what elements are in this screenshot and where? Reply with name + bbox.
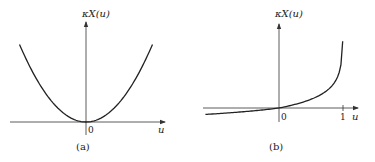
figure: κX(u) 0 u (a) κX(u) 0 1 u (b) bbox=[0, 0, 375, 162]
x-label-a: u bbox=[158, 124, 164, 135]
curve-b bbox=[205, 41, 342, 114]
x-tick-label-a-0: 0 bbox=[88, 125, 94, 135]
y-label-a: κX(u) bbox=[81, 8, 110, 19]
y-label-b: κX(u) bbox=[274, 8, 303, 19]
panel-label-b: (b) bbox=[269, 141, 283, 152]
panel-label-a: (a) bbox=[76, 141, 90, 152]
panel-b: κX(u) 0 1 u (b) bbox=[203, 8, 358, 152]
x-label-b: u bbox=[352, 111, 358, 122]
x-tick-label-b-1: 1 bbox=[340, 112, 346, 122]
x-tick-label-b-0: 0 bbox=[281, 112, 287, 122]
panel-a: κX(u) 0 u (a) bbox=[10, 8, 165, 152]
